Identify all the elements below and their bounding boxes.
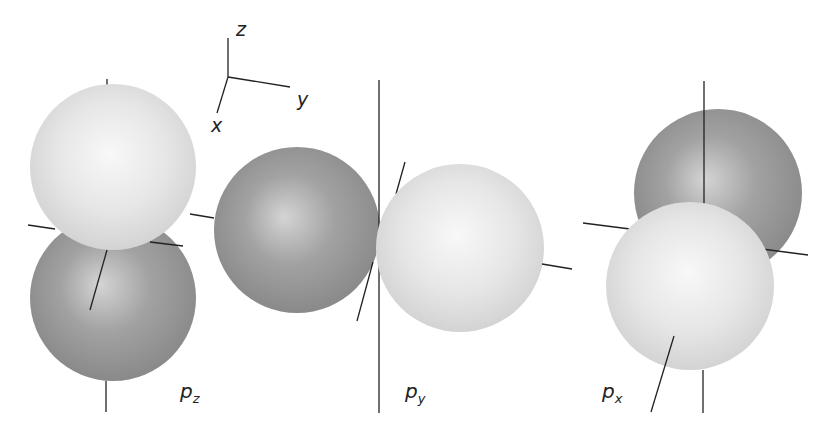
- pz-upper-lobe: [30, 84, 196, 250]
- px-y-axis-left: [583, 223, 630, 229]
- p-orbitals-diagram: z y x pz py px: [0, 0, 825, 438]
- px-label: px: [601, 379, 623, 406]
- triad-y-axis: [228, 77, 290, 87]
- px-orbital: px: [583, 81, 808, 413]
- pz-y-axis-left: [28, 225, 55, 229]
- pz-label: pz: [179, 379, 201, 406]
- py-label: py: [404, 379, 426, 406]
- py-right-lobe: [376, 164, 544, 332]
- triad-label-z: z: [235, 18, 247, 40]
- py-orbital: py: [190, 80, 572, 413]
- py-y-axis-left: [190, 214, 214, 218]
- px-front-lobe: [606, 202, 774, 370]
- pz-orbital: pz: [28, 79, 201, 412]
- triad-label-x: x: [210, 114, 223, 136]
- py-y-axis-right: [542, 264, 572, 269]
- py-left-lobe: [214, 147, 380, 313]
- triad-x-axis: [217, 77, 228, 113]
- triad-label-y: y: [296, 88, 309, 110]
- coordinate-triad: z y x: [210, 18, 309, 136]
